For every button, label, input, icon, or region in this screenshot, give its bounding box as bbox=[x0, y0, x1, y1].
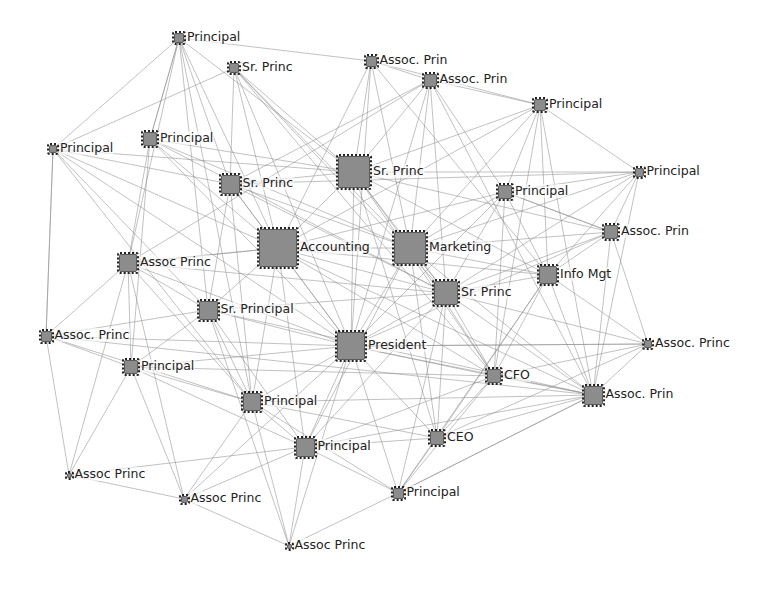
node-label: Principal bbox=[159, 131, 214, 145]
node-label: CEO bbox=[446, 430, 474, 444]
edge bbox=[351, 346, 593, 395]
node-sr-princ[interactable] bbox=[221, 175, 240, 194]
node-assoc-princ[interactable] bbox=[287, 544, 292, 549]
node-assoc-princ[interactable] bbox=[644, 340, 652, 348]
edge bbox=[234, 68, 410, 248]
edge bbox=[184, 499, 289, 546]
edge bbox=[351, 61, 371, 346]
node-sr-princ[interactable] bbox=[229, 63, 239, 73]
node-label: Assoc Princ bbox=[190, 491, 263, 505]
edge bbox=[208, 310, 593, 395]
edge bbox=[69, 367, 131, 475]
node-label: Sr. Princ bbox=[372, 164, 425, 178]
node-label: Assoc Princ bbox=[294, 538, 367, 552]
node-assoc-princ[interactable] bbox=[181, 496, 188, 503]
edge bbox=[593, 232, 611, 395]
node-principal[interactable] bbox=[635, 168, 644, 177]
node-label: Sr. Princ bbox=[242, 176, 295, 190]
edge bbox=[611, 232, 648, 344]
edge bbox=[430, 80, 593, 395]
node-sr-princ[interactable] bbox=[434, 281, 458, 305]
node-president[interactable] bbox=[337, 332, 365, 360]
node-label: Assoc. Prin bbox=[620, 224, 690, 238]
node-label: Assoc. Princ bbox=[54, 328, 131, 342]
node-label: CFO bbox=[503, 368, 531, 382]
edge bbox=[446, 293, 648, 344]
edge bbox=[128, 263, 252, 402]
node-label: Principal bbox=[406, 485, 461, 499]
node-label: Principal bbox=[263, 394, 318, 408]
node-label: Info Mgt bbox=[559, 267, 612, 281]
edge bbox=[69, 263, 128, 475]
edge bbox=[430, 80, 446, 293]
node-marketing[interactable] bbox=[394, 232, 426, 264]
node-assoc-prin[interactable] bbox=[366, 56, 377, 67]
node-ceo[interactable] bbox=[430, 431, 444, 445]
node-assoc-prin[interactable] bbox=[584, 386, 603, 405]
edge bbox=[410, 248, 494, 376]
node-principal[interactable] bbox=[534, 99, 546, 111]
node-assoc-princ[interactable] bbox=[119, 254, 137, 272]
edge bbox=[540, 105, 639, 172]
edge bbox=[208, 310, 289, 546]
edge bbox=[179, 38, 252, 402]
edge bbox=[351, 346, 398, 493]
edge bbox=[593, 172, 639, 395]
network-diagram-canvas bbox=[0, 0, 776, 594]
node-sr-princ[interactable] bbox=[338, 156, 370, 188]
edge bbox=[46, 149, 53, 336]
node-principal[interactable] bbox=[243, 393, 261, 411]
node-label: Principal bbox=[140, 359, 195, 373]
edge bbox=[430, 80, 505, 192]
node-label: Assoc. Prin bbox=[379, 53, 449, 67]
node-label: Principal bbox=[186, 30, 241, 44]
edge bbox=[150, 38, 179, 139]
node-label: President bbox=[367, 338, 427, 352]
edge bbox=[252, 402, 289, 546]
node-assoc-princ[interactable] bbox=[41, 331, 52, 342]
node-assoc-prin[interactable] bbox=[424, 74, 437, 87]
node-label: Principal bbox=[514, 184, 569, 198]
edge bbox=[230, 68, 234, 184]
node-label: Sr. Principal bbox=[220, 302, 295, 316]
node-label: Sr. Princ bbox=[460, 285, 513, 299]
node-principal[interactable] bbox=[174, 33, 184, 43]
node-principal[interactable] bbox=[49, 145, 57, 153]
node-label: Marketing bbox=[428, 240, 492, 254]
edge bbox=[289, 447, 305, 546]
node-label: Principal bbox=[317, 439, 372, 453]
edge bbox=[305, 293, 446, 447]
edge bbox=[46, 336, 69, 475]
edge bbox=[548, 275, 648, 344]
edge bbox=[278, 248, 494, 376]
node-label: Assoc. Prin bbox=[605, 387, 675, 401]
node-label: Assoc. Princ bbox=[654, 336, 731, 350]
node-assoc-prin[interactable] bbox=[604, 225, 618, 239]
node-label: Principal bbox=[548, 97, 603, 111]
edge bbox=[208, 184, 230, 310]
node-principal[interactable] bbox=[143, 132, 157, 146]
edge bbox=[234, 68, 278, 248]
node-label: Principal bbox=[646, 164, 701, 178]
edge bbox=[53, 149, 208, 310]
node-label: Sr. Princ bbox=[241, 60, 294, 74]
node-accounting[interactable] bbox=[259, 229, 297, 267]
node-label: Assoc Princ bbox=[74, 467, 147, 481]
node-principal[interactable] bbox=[393, 488, 404, 499]
node-principal[interactable] bbox=[296, 438, 315, 457]
node-label: Accounting bbox=[299, 240, 371, 254]
node-principal[interactable] bbox=[498, 185, 512, 199]
edge bbox=[505, 105, 540, 192]
edge bbox=[252, 248, 278, 402]
edge bbox=[505, 192, 611, 232]
node-assoc-princ[interactable] bbox=[67, 473, 72, 478]
node-label: Assoc. Prin bbox=[439, 72, 509, 86]
node-info-mgt[interactable] bbox=[539, 266, 557, 284]
node-label: Assoc Princ bbox=[139, 255, 212, 269]
edge bbox=[128, 263, 131, 367]
node-sr-principal[interactable] bbox=[199, 301, 218, 320]
node-label: Principal bbox=[59, 141, 114, 155]
node-cfo[interactable] bbox=[487, 369, 501, 383]
edge bbox=[305, 447, 398, 493]
node-principal[interactable] bbox=[124, 360, 138, 374]
